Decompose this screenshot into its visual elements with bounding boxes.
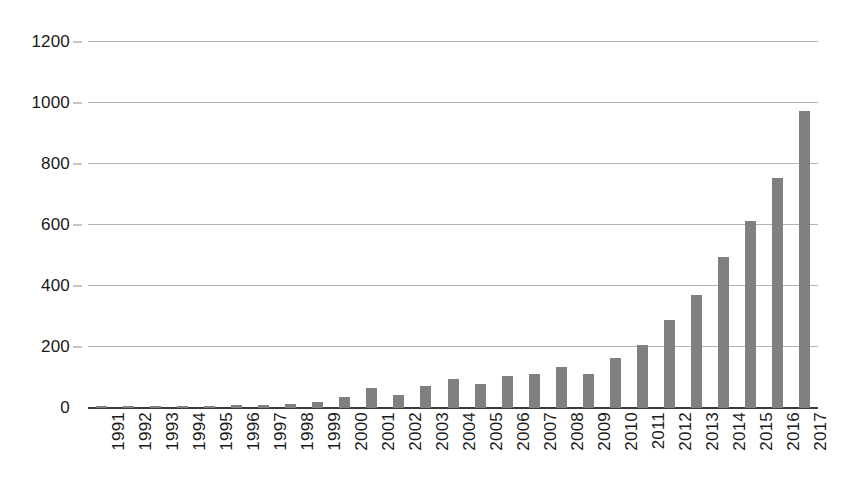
bar (231, 405, 242, 408)
x-tick-label: 2017 (811, 412, 831, 451)
x-tick-label: 2002 (406, 412, 426, 451)
x-tick-label: 2005 (487, 412, 507, 451)
plot-area (88, 42, 818, 408)
bar (204, 406, 215, 408)
x-tick-label: 2006 (514, 412, 534, 451)
x-tick-label: 2010 (622, 412, 642, 451)
y-tick-label: 1000 (31, 93, 70, 113)
x-tick-label: 1995 (217, 412, 237, 451)
x-axis: 1991199219931994199519961997199819992000… (88, 412, 818, 497)
x-tick-label: 2008 (568, 412, 588, 451)
x-tick-label: 2013 (703, 412, 723, 451)
bar (312, 402, 323, 408)
bar-series (88, 42, 818, 408)
y-tick-label: 1200 (31, 32, 70, 52)
x-tick-label: 1999 (325, 412, 345, 451)
x-tick-label: 1993 (163, 412, 183, 451)
y-tick-label: 600 (41, 215, 70, 235)
x-tick-label: 2014 (730, 412, 750, 451)
x-tick-label: 2000 (352, 412, 372, 451)
y-tick-mark (73, 347, 82, 348)
bar (637, 345, 648, 408)
x-tick-label: 1997 (271, 412, 291, 451)
x-tick-label: 1996 (244, 412, 264, 451)
y-tick-label: 200 (41, 337, 70, 357)
x-tick-label: 2012 (676, 412, 696, 451)
bar (258, 405, 269, 408)
bar (610, 358, 621, 408)
x-tick-label: 2001 (379, 412, 399, 451)
x-tick-label: 2007 (541, 412, 561, 451)
bar (177, 406, 188, 408)
y-tick-label: 800 (41, 154, 70, 174)
bar (448, 379, 459, 408)
x-tick-label: 2003 (433, 412, 453, 451)
x-tick-label: 1998 (298, 412, 318, 451)
x-tick-label: 1992 (136, 412, 156, 451)
bar (96, 406, 107, 408)
y-tick-label: 400 (41, 276, 70, 296)
bar (475, 384, 486, 408)
y-axis: 020040060080010001200 (0, 0, 88, 460)
bar (393, 395, 404, 408)
bar-chart: 020040060080010001200 199119921993199419… (0, 0, 857, 499)
bar (772, 178, 783, 408)
bar (285, 404, 296, 408)
y-tick-mark (73, 103, 82, 104)
bar (420, 386, 431, 408)
bar (691, 295, 702, 408)
x-tick-label: 2009 (595, 412, 615, 451)
x-tick-label: 2016 (784, 412, 804, 451)
bar (529, 374, 540, 408)
bar (339, 397, 350, 408)
bar (718, 257, 729, 408)
x-tick-label: 2015 (757, 412, 777, 451)
bar (366, 388, 377, 408)
x-tick-label: 2011 (649, 412, 669, 449)
bar (583, 374, 594, 408)
y-tick-mark (73, 42, 82, 43)
x-tick-label: 2004 (460, 412, 480, 451)
bar (799, 111, 810, 408)
x-tick-label: 1991 (109, 412, 129, 451)
y-tick-mark (73, 164, 82, 165)
x-tick-label: 1994 (190, 412, 210, 451)
bar (150, 406, 161, 408)
bar (556, 367, 567, 408)
bar (745, 221, 756, 408)
bar (502, 376, 513, 408)
bar (664, 320, 675, 408)
y-tick-mark (73, 286, 82, 287)
bar (123, 406, 134, 408)
y-tick-mark (73, 225, 82, 226)
y-tick-label: 0 (60, 398, 70, 418)
